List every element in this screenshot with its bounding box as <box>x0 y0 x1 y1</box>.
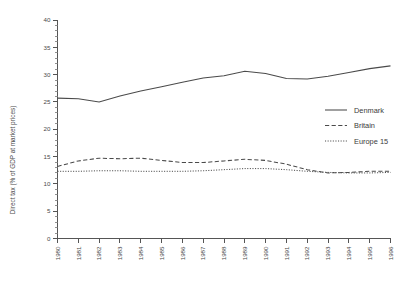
line-chart: Direct tax (% of GDP at market prices) 0… <box>0 0 411 292</box>
x-tick-label: 1986 <box>179 246 186 260</box>
x-tick-label: 1994 <box>345 246 352 260</box>
x-tick-label: 1983 <box>116 246 123 260</box>
x-tick-label: 1993 <box>324 246 331 260</box>
x-tick-label: 1996 <box>387 246 394 260</box>
legend-label-europe-15: Europe 15 <box>354 137 388 146</box>
x-tick-label: 1984 <box>137 246 144 260</box>
x-tick-label: 1990 <box>262 246 269 260</box>
y-tick-label: 35 <box>44 44 51 51</box>
y-tick-label: 25 <box>44 98 51 105</box>
y-tick-label: 40 <box>44 16 51 23</box>
x-tick-label: 1988 <box>220 246 227 260</box>
x-tick-label: 1987 <box>199 246 206 260</box>
x-tick-label: 1992 <box>303 246 310 260</box>
x-tick-label: 1985 <box>158 246 165 260</box>
y-tick-label: 15 <box>44 153 51 160</box>
chart-figure: Direct tax (% of GDP at market prices) 0… <box>0 0 411 292</box>
series-line-denmark <box>58 66 391 102</box>
y-tick-label: 10 <box>44 180 51 187</box>
x-tick-label: 1982 <box>95 246 102 260</box>
legend-label-denmark: Denmark <box>354 106 384 115</box>
x-tick-label: 1980 <box>54 246 61 260</box>
x-tick-label: 1995 <box>366 246 373 260</box>
x-axis-major-ticks <box>58 239 391 244</box>
y-axis-label: Direct tax (% of GDP at market prices) <box>9 106 17 215</box>
legend-label-britain: Britain <box>354 121 375 130</box>
x-tick-label: 1989 <box>241 246 248 260</box>
x-tick-label: 1981 <box>75 246 82 260</box>
y-tick-label: 20 <box>44 125 51 132</box>
y-tick-label: 30 <box>44 71 51 78</box>
chart-legend: DenmarkBritainEurope 15 <box>325 106 388 146</box>
data-series-group <box>58 66 391 173</box>
y-axis-tick-labels: 0510152025303540 <box>44 16 51 242</box>
y-tick-label: 5 <box>47 207 51 214</box>
x-axis-tick-labels: 1980198119821983198419851986198719881989… <box>54 246 394 260</box>
x-tick-label: 1991 <box>283 246 290 260</box>
y-tick-label: 0 <box>47 235 51 242</box>
